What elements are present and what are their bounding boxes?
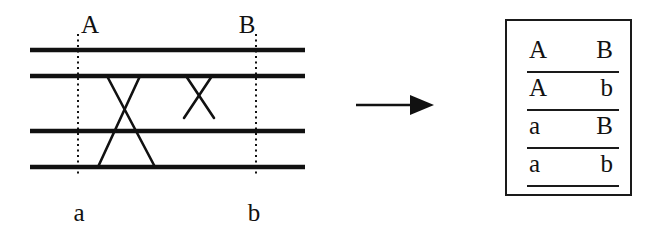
- gamete-row: a b: [527, 149, 619, 187]
- gamete-row: A B: [527, 35, 619, 73]
- gamete-allele-left: a: [529, 111, 540, 141]
- crossover-chromatids-2-3: [184, 76, 214, 118]
- gamete-allele-right: B: [596, 35, 613, 65]
- gamete-table-box: A B A b a B a b: [505, 19, 632, 196]
- gamete-allele-right: b: [601, 149, 614, 179]
- crossover-small-strand-down-right: [186, 76, 214, 118]
- gamete-allele-left: A: [529, 35, 547, 65]
- gamete-list: A B A b a B a b: [527, 35, 619, 187]
- locus-label-B: B: [239, 12, 256, 37]
- locus-label-A: A: [81, 12, 99, 37]
- crossover-strand-down-left: [98, 76, 140, 167]
- rightward-arrow-svg: [352, 86, 442, 124]
- chromatid-diagram-svg: [0, 0, 330, 234]
- chromatid-lines: [30, 50, 305, 167]
- chromatid-diagram: [0, 0, 330, 234]
- locus-label-b: b: [248, 200, 261, 225]
- gamete-row: A b: [527, 73, 619, 111]
- gamete-allele-right: b: [601, 73, 614, 103]
- arrow-head: [410, 95, 434, 115]
- gamete-allele-left: A: [529, 73, 547, 103]
- gamete-allele-left: a: [529, 149, 540, 179]
- gamete-row: a B: [527, 111, 619, 149]
- rightward-arrow-icon: [352, 86, 442, 124]
- figure-root: A B a b A B A b a B a b: [0, 0, 656, 234]
- gamete-allele-right: B: [596, 111, 613, 141]
- crossover-small-strand-down-left: [184, 76, 212, 118]
- crossover-chromatids-2-4: [98, 76, 155, 167]
- crossover-strand-down-right: [107, 76, 155, 167]
- locus-label-a: a: [73, 200, 84, 225]
